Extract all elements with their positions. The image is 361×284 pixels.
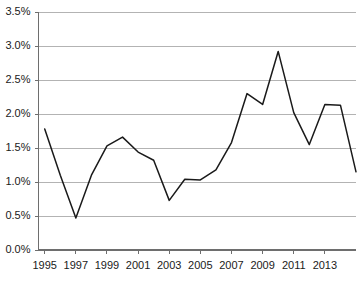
x-tick-label: 2011 — [282, 259, 306, 271]
x-axis-ticks — [45, 250, 325, 254]
y-tick-label: 2.5% — [5, 73, 30, 85]
x-tick-label: 2003 — [157, 259, 181, 271]
y-tick-label: 1.5% — [5, 141, 30, 153]
x-tick-label: 2009 — [250, 259, 274, 271]
y-tick-label: 3.0% — [5, 39, 30, 51]
y-tick-label: 1.0% — [5, 175, 30, 187]
x-tick-label: 1999 — [95, 259, 119, 271]
x-tick-label: 2005 — [188, 259, 212, 271]
data-series-line — [45, 51, 356, 218]
x-tick-label: 2007 — [219, 259, 243, 271]
y-tick-label: 0.5% — [5, 209, 30, 221]
x-axis-tick-labels: 1995199719992001200320052007200920112013 — [32, 259, 337, 271]
gridlines — [39, 12, 357, 216]
y-tick-label: 3.5% — [5, 5, 30, 17]
x-tick-label: 1997 — [64, 259, 88, 271]
y-tick-label: 0.0% — [5, 243, 30, 255]
chart-canvas: 0.0%0.5%1.0%1.5%2.0%2.5%3.0%3.5% 1995199… — [0, 0, 361, 284]
x-tick-label: 2013 — [313, 259, 337, 271]
x-tick-label: 2001 — [126, 259, 150, 271]
y-axis-tick-labels: 0.0%0.5%1.0%1.5%2.0%2.5%3.0%3.5% — [5, 5, 30, 255]
y-tick-label: 2.0% — [5, 107, 30, 119]
x-tick-label: 1995 — [32, 259, 56, 271]
line-chart: 0.0%0.5%1.0%1.5%2.0%2.5%3.0%3.5% 1995199… — [0, 0, 361, 284]
